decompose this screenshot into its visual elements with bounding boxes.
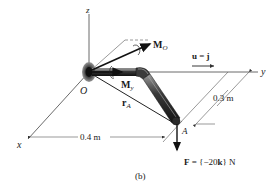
- dimension-line-x: [31, 121, 182, 142]
- unit-vector-equals: =: [197, 51, 207, 61]
- dimension-y-label: 0.3 m: [213, 94, 234, 103]
- position-rA-subscript: A: [126, 102, 130, 110]
- point-A-label: A: [182, 127, 188, 136]
- moment-My-subscript: y: [130, 84, 133, 92]
- x-axis: [28, 72, 89, 139]
- force-label: F = {−20k} N: [184, 158, 236, 167]
- x-axis-label: x: [17, 140, 21, 150]
- y-axis-label: y: [261, 67, 265, 77]
- origin-label: O: [80, 86, 87, 96]
- moment-My-label: My: [121, 80, 134, 92]
- figure-caption: (b): [135, 172, 146, 181]
- pipe-segment-diagonal: [143, 74, 180, 125]
- moment-MO-label: MO: [153, 40, 168, 52]
- dimension-x-label: 0.4 m: [80, 133, 101, 142]
- force-close: } N: [223, 157, 236, 167]
- z-axis-label: z: [86, 6, 90, 15]
- diagram-canvas: [0, 0, 280, 187]
- unit-vector-label: u = j: [192, 52, 210, 61]
- moment-MO-arrow: [92, 44, 150, 70]
- moment-MO-subscript: O: [162, 44, 167, 52]
- position-rA-label: rA: [122, 98, 131, 110]
- force-eq-open: = {−20: [190, 157, 218, 167]
- unit-vector-j: j: [207, 51, 210, 61]
